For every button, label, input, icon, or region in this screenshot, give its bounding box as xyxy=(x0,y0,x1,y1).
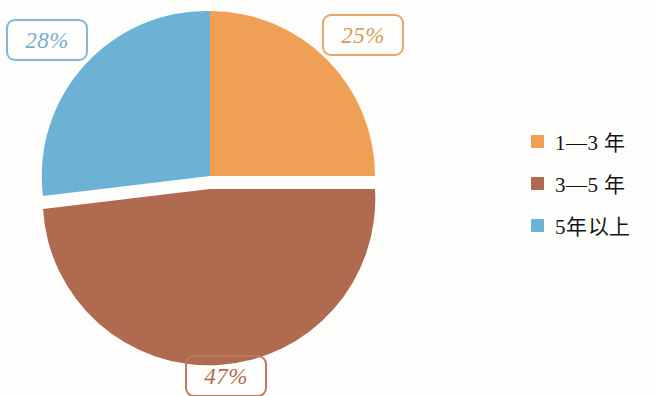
legend-item-1-3-years[interactable]: 1—3 年 xyxy=(531,120,655,162)
data-label-25-percent: 25% xyxy=(322,14,404,56)
legend-label-3-5-years: 3—5 年 xyxy=(555,168,626,198)
legend-label-1-3-years: 1—3 年 xyxy=(555,126,626,156)
data-label-47-percent: 47% xyxy=(185,355,267,396)
pie-chart-figure: 25% 28% 47% 1—3 年 3—5 年 5年以上 xyxy=(0,0,655,396)
data-label-28-percent: 28% xyxy=(6,19,88,61)
legend-swatch-blue-icon xyxy=(531,219,544,232)
legend-item-5-years-plus[interactable]: 5年以上 xyxy=(531,204,655,246)
chart-legend: 1—3 年 3—5 年 5年以上 xyxy=(531,120,655,246)
legend-label-5-years-plus: 5年以上 xyxy=(555,210,631,240)
legend-item-3-5-years[interactable]: 3—5 年 xyxy=(531,162,655,204)
legend-swatch-brown-icon xyxy=(531,177,544,190)
legend-swatch-orange-icon xyxy=(531,135,544,148)
pie-slice-3-5-years[interactable] xyxy=(43,189,375,365)
